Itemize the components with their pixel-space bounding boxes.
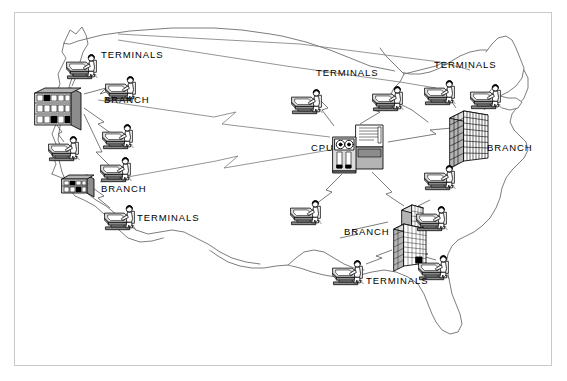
label-terminals-ne: TERMINALS (434, 59, 496, 70)
label-cpu: CPU (311, 142, 334, 153)
label-branch-w: BRANCH (101, 183, 147, 194)
diagram-canvas: TERMINALS BRANCH BRANCH TERMINALS TERMIN… (0, 0, 567, 381)
network-diagram-figure: TERMINALS BRANCH BRANCH TERMINALS TERMIN… (0, 0, 567, 381)
label-branch-se: BRANCH (344, 226, 390, 237)
label-terminals-se: TERMINALS (366, 275, 428, 286)
label-terminals-nw: TERMINALS (101, 49, 163, 60)
label-branch-nw: BRANCH (104, 94, 150, 105)
label-branch-ne: BRANCH (487, 142, 533, 153)
label-terminals-center: TERMINALS (316, 67, 378, 78)
label-terminals-w: TERMINALS (137, 212, 199, 223)
branch-office-west[interactable] (35, 88, 81, 130)
